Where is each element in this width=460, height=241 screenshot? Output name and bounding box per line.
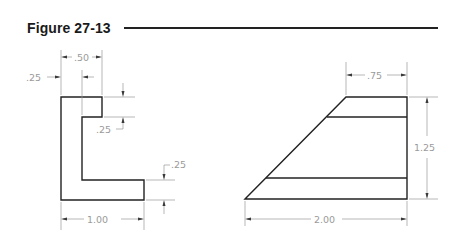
dim-left-overall-width: 1.00 xyxy=(87,214,108,225)
dim-right-height: 1.25 xyxy=(414,142,435,153)
dim-left-offset: .25 xyxy=(26,72,41,83)
dim-right-top-width: .75 xyxy=(367,70,382,81)
right-view: .75 1.25 2.00 xyxy=(245,62,438,226)
dim-base-thickness: .25 xyxy=(171,159,186,170)
dim-left-top-width: .50 xyxy=(74,52,89,63)
drawing-canvas: .50 .25 .25 .25 1.00 xyxy=(0,0,460,241)
left-view: .50 .25 .25 .25 1.00 xyxy=(26,50,186,230)
dim-right-overall-width: 2.00 xyxy=(314,214,335,225)
dim-notch-depth: .25 xyxy=(96,124,111,135)
right-view-outline xyxy=(245,97,407,199)
left-view-outline xyxy=(61,97,144,200)
